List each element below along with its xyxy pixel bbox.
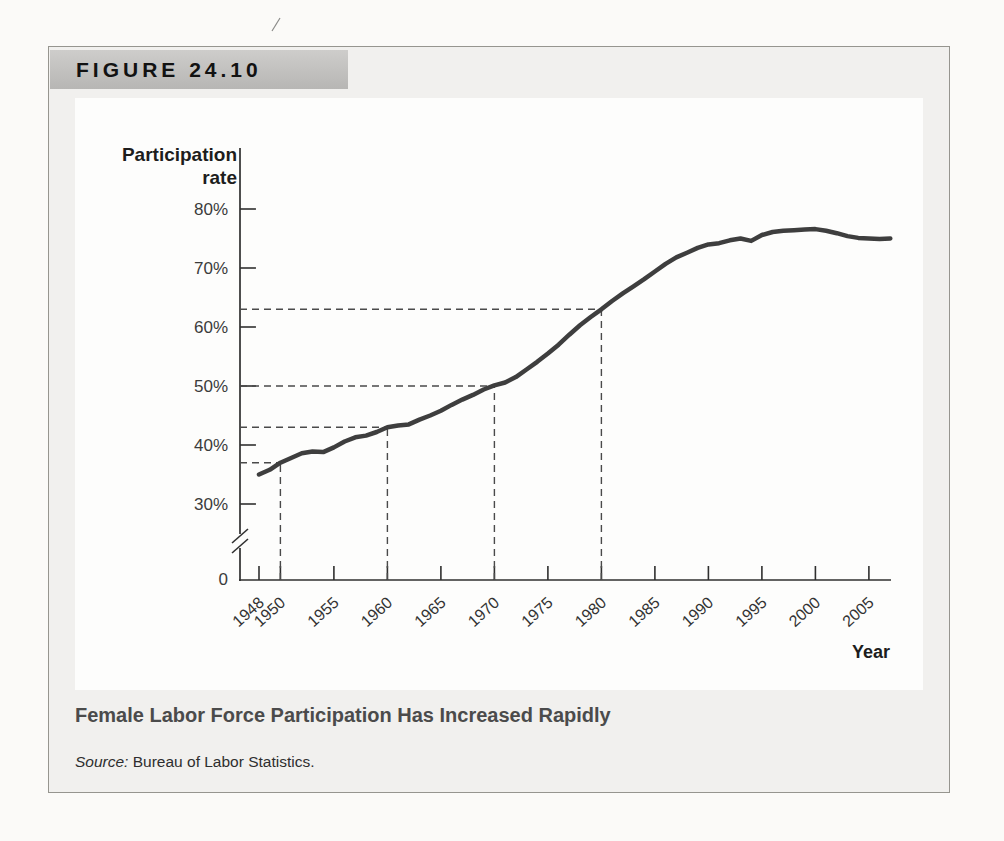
participation-rate-chart: Participation rate 0 Year 30%40%50%60%70… <box>0 0 1004 841</box>
x-tick-label: 1980 <box>572 594 610 631</box>
x-tick-label: 1995 <box>732 594 770 631</box>
x-tick-label: 1960 <box>358 594 396 631</box>
y-tick-label: 80% <box>194 200 228 219</box>
x-tick-label: 1955 <box>304 594 342 631</box>
y-tick-label: 40% <box>194 436 228 455</box>
participation-curve <box>259 229 890 474</box>
x-tick-label: 1985 <box>625 594 663 631</box>
y-tick-label: 30% <box>194 495 228 514</box>
x-tick-label: 1990 <box>679 594 717 631</box>
x-tick-label: 1965 <box>411 594 449 631</box>
x-axis-title: Year <box>852 642 890 662</box>
page: { "figure": { "label": "FIGURE 24.10", "… <box>0 0 1004 841</box>
chart-generated-layer: 30%40%50%60%70%80%1948195019551960196519… <box>194 148 891 630</box>
y-axis-title-line2: rate <box>202 167 237 188</box>
y-tick-label: 50% <box>194 377 228 396</box>
y-axis-title-line1: Participation <box>122 144 237 165</box>
y-tick-label: 70% <box>194 259 228 278</box>
x-tick-label: 2005 <box>839 594 877 631</box>
x-tick-label: 1970 <box>465 594 503 631</box>
origin-label: 0 <box>219 570 228 589</box>
y-tick-label: 60% <box>194 318 228 337</box>
stray-pen-mark <box>272 18 280 31</box>
x-tick-label: 1975 <box>518 594 556 631</box>
x-tick-label: 2000 <box>786 594 824 631</box>
